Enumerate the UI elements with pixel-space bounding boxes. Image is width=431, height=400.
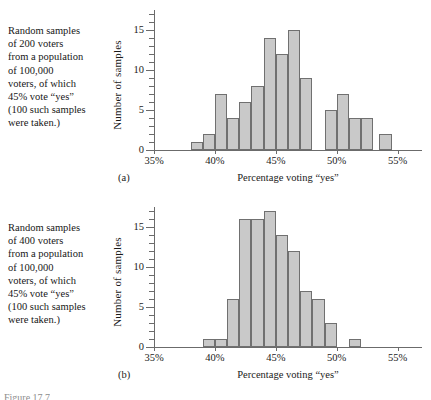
bars-container-b (154, 207, 422, 347)
x-axis-tick-label: 45% (256, 352, 296, 363)
y-axis-tick (149, 102, 154, 103)
histogram-bar (325, 110, 337, 150)
caption-line: from a population (8, 50, 112, 63)
histogram-bar (251, 86, 263, 150)
histogram-bar (349, 339, 361, 347)
x-axis-tick (276, 150, 277, 154)
x-axis-tick-label: 55% (378, 352, 418, 363)
histogram-bar (203, 339, 215, 347)
y-axis-tick (149, 331, 154, 332)
x-axis-tick-label: 50% (317, 155, 357, 166)
x-axis-tick (398, 150, 399, 154)
x-axis-tick (215, 150, 216, 154)
y-axis-tick (149, 211, 154, 212)
caption-line: (100 such samples (8, 300, 112, 313)
y-axis-tick (149, 142, 154, 143)
caption-line: Random samples (8, 221, 112, 234)
histogram-bar (215, 94, 227, 150)
histogram-panel-b: Random samples of 400 voters from a popu… (0, 197, 431, 394)
histogram-bar (215, 339, 227, 347)
y-axis-tick (149, 291, 154, 292)
x-axis-line (154, 150, 422, 151)
caption-line: of 200 voters (8, 37, 112, 50)
histogram-bar (349, 118, 361, 150)
y-axis-tick-label: 0 (126, 341, 144, 352)
y-axis-tick (149, 243, 154, 244)
y-axis-tick (149, 339, 154, 340)
x-axis-tick-label: 35% (134, 352, 174, 363)
histogram-bar (379, 134, 391, 150)
y-axis-tick (149, 94, 154, 95)
y-axis-tick (149, 235, 154, 236)
y-axis-tick (149, 323, 154, 324)
histogram-panel-a: Random samples of 200 voters from a popu… (0, 0, 431, 197)
y-axis-tick (149, 78, 154, 79)
histogram-bar (337, 94, 349, 150)
y-axis-tick-label: 5 (126, 301, 144, 312)
y-axis-tick (149, 283, 154, 284)
plot-area-a: Number of samples Percentage voting “yes… (113, 10, 423, 160)
x-axis-tick (276, 347, 277, 351)
histogram-bar (264, 38, 276, 150)
panel-a-caption: Random samples of 200 voters from a popu… (8, 24, 112, 130)
caption-line: from a population (8, 247, 112, 260)
y-axis-tick (146, 30, 154, 31)
x-axis-title: Percentage voting “yes” (154, 369, 422, 380)
histogram-bar (312, 299, 324, 347)
caption-line: (100 such samples (8, 103, 112, 116)
x-axis-tick-label: 35% (134, 155, 174, 166)
x-axis-tick (154, 347, 155, 351)
histogram-bar (288, 30, 300, 150)
y-axis-tick-label: 15 (126, 24, 144, 35)
y-axis-tick (149, 299, 154, 300)
y-axis-tick (146, 227, 154, 228)
histogram-bar (300, 78, 312, 150)
y-axis-tick (149, 219, 154, 220)
histogram-bar (264, 211, 276, 347)
y-axis-tick (149, 62, 154, 63)
y-axis-tick (149, 46, 154, 47)
x-axis-tick (337, 347, 338, 351)
y-axis-tick (149, 251, 154, 252)
caption-line: were taken.) (8, 116, 112, 129)
y-axis-tick (146, 70, 154, 71)
y-axis-tick (149, 38, 154, 39)
x-axis-tick (398, 347, 399, 351)
y-axis-tick (149, 86, 154, 87)
plot-area-b: Number of samples Percentage voting “yes… (113, 207, 423, 357)
caption-line: 45% vote “yes” (8, 287, 112, 300)
y-axis-tick (149, 118, 154, 119)
caption-line: of 400 voters (8, 234, 112, 247)
y-axis-tick (149, 14, 154, 15)
x-axis-tick (215, 347, 216, 351)
histogram-bar (203, 134, 215, 150)
histogram-bar (227, 118, 239, 150)
caption-line: of 100,000 (8, 64, 112, 77)
histogram-bar (288, 251, 300, 347)
x-axis-tick-label: 50% (317, 352, 357, 363)
y-axis-title: Number of samples (111, 207, 124, 357)
caption-line: 45% vote “yes” (8, 90, 112, 103)
y-axis-tick-label: 15 (126, 221, 144, 232)
x-axis-tick-label: 55% (378, 155, 418, 166)
y-axis-tick (149, 126, 154, 127)
caption-line: voters, of which (8, 274, 112, 287)
histogram-bar (239, 219, 251, 347)
x-axis-tick (154, 150, 155, 154)
figure-reference: Figure 17.7 (4, 392, 50, 400)
histogram-bar (276, 54, 288, 150)
caption-line: voters, of which (8, 77, 112, 90)
y-axis-tick-label: 0 (126, 144, 144, 155)
x-axis-line (154, 347, 422, 348)
y-axis-tick-label: 10 (126, 261, 144, 272)
histogram-bar (239, 102, 251, 150)
panel-b-caption: Random samples of 400 voters from a popu… (8, 221, 112, 327)
panel-label-a: (a) (118, 172, 130, 183)
histogram-bar (227, 299, 239, 347)
histogram-bar (276, 235, 288, 347)
x-axis-title: Percentage voting “yes” (154, 172, 422, 183)
y-axis-tick (149, 54, 154, 55)
y-axis-tick (149, 275, 154, 276)
y-axis-tick-label: 10 (126, 64, 144, 75)
y-axis-tick (146, 307, 154, 308)
